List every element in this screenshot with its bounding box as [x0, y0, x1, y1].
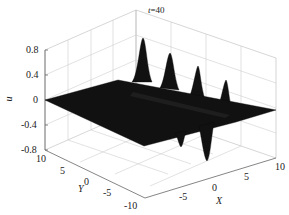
y-tick-label: -10	[124, 201, 137, 211]
y-tick-label: 10	[36, 154, 46, 164]
y-tick-label: 0	[84, 177, 89, 187]
chart-title: t=40	[148, 6, 165, 15]
surface-plot	[0, 0, 289, 215]
x-tick-label: 5	[244, 172, 249, 182]
z-tick-label: 0	[33, 95, 38, 105]
x-axis-label: X	[216, 196, 222, 206]
y-tick-label: 5	[60, 166, 65, 176]
x-tick-label: 0	[212, 183, 217, 193]
z-tick-label: -0.8	[21, 145, 37, 155]
z-axis-label: u	[4, 97, 14, 102]
surface	[45, 38, 276, 161]
z-tick-label: -0.4	[21, 120, 37, 130]
x-tick-label: -5	[179, 192, 187, 202]
z-tick-label: 0.4	[26, 70, 39, 80]
z-tick-label: 0.8	[26, 45, 39, 55]
title-value: =40	[151, 5, 165, 15]
x-tick-label: 10	[275, 162, 285, 172]
y-axis-label: Y	[78, 184, 84, 194]
y-tick-label: -5	[103, 188, 111, 198]
